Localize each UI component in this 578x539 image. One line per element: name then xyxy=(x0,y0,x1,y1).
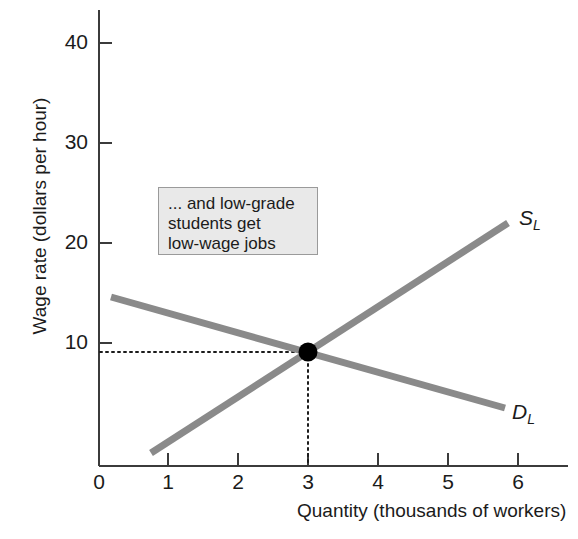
supply-curve-label: SL xyxy=(519,206,541,233)
x-tick-label-3: 3 xyxy=(291,470,325,494)
demand-curve-label-subscript: L xyxy=(527,411,535,427)
x-tick-label-4: 4 xyxy=(361,470,395,494)
callout-line-3: low-wage jobs xyxy=(168,234,317,254)
callout-line-1: ... and low-grade xyxy=(168,194,317,214)
demand-curve-label-text: D xyxy=(512,400,527,423)
callout-line-2: students get xyxy=(168,214,317,234)
supply-curve-label-subscript: L xyxy=(533,217,541,233)
demand-curve-label: DL xyxy=(512,400,535,427)
x-tick-label-0: 0 xyxy=(82,470,116,494)
x-axis-title: Quantity (thousands of workers) xyxy=(297,500,566,522)
supply-curve-label-text: S xyxy=(519,206,533,229)
plot-area xyxy=(0,0,578,539)
y-axis-title: Wage rate (dollars per hour) xyxy=(29,86,51,346)
wage-rate-quantity-chart: 40 30 20 10 0 1 2 3 4 5 6 Quantity (thou… xyxy=(0,0,578,539)
x-tick-label-1: 1 xyxy=(151,470,185,494)
x-tick-label-6: 6 xyxy=(501,470,535,494)
y-tick-label-40: 40 xyxy=(44,30,88,54)
annotation-callout-box: ... and low-grade students get low-wage … xyxy=(158,187,318,255)
x-tick-label-2: 2 xyxy=(221,470,255,494)
supply-curve xyxy=(151,223,508,453)
x-tick-label-5: 5 xyxy=(431,470,465,494)
equilibrium-point xyxy=(299,343,318,362)
